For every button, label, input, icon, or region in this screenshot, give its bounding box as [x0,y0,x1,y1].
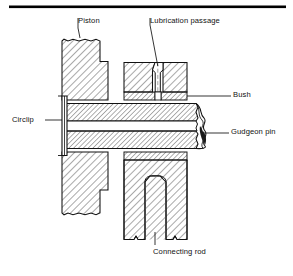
label-connecting-rod: Connecting rod [153,247,206,256]
bush-upper [124,92,187,100]
label-gudgeon-pin: Gudgeon pin [231,127,276,136]
label-piston: Piston [78,16,100,25]
label-lubrication-passage: Lubrication passage [150,16,220,25]
piston-upper-section [62,39,108,100]
label-bush: Bush [233,90,251,99]
page-rule [9,6,286,9]
label-circlip: Circlip [12,115,34,124]
gudgeon-pin-assembly-figure [0,0,293,276]
connecting-rod-small-end [124,63,187,93]
bush-lower [124,152,187,160]
circlip [58,96,67,156]
connecting-rod-shank [124,160,187,240]
gudgeon-pin-bore [66,121,198,131]
leader-lubrication-passage [150,18,158,66]
piston-lower-section [62,152,108,215]
gudgeon-pin [66,104,206,149]
